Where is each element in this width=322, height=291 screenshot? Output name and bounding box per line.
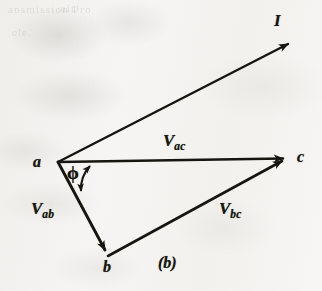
vector-label-vab: Vab <box>31 200 54 217</box>
vector-label-vac-symbol: V <box>163 131 174 150</box>
phasor-diagram-figure: ansmission Pro uit ole. a b c I Vac Vab … <box>0 0 322 291</box>
figure-caption: (b) <box>158 255 177 271</box>
vector-label-current-I: I <box>274 12 281 29</box>
vector-line-vbc <box>108 161 282 256</box>
vector-drawing-canvas <box>0 0 322 291</box>
vector-label-vab-subscript: ab <box>42 208 54 220</box>
vector-label-vac-subscript: ac <box>174 140 185 152</box>
vector-label-vbc-subscript: bc <box>230 208 241 220</box>
node-label-c: c <box>297 149 304 165</box>
vector-label-vac: Vac <box>163 132 186 149</box>
vector-label-vbc-symbol: V <box>219 199 230 218</box>
angle-arc-phi <box>81 166 90 191</box>
vector-label-vab-symbol: V <box>31 199 42 218</box>
node-label-b: b <box>103 259 111 275</box>
vector-line-vab <box>58 162 105 250</box>
vector-line-vac <box>58 159 283 163</box>
angle-label-phi: ϕ <box>67 163 79 182</box>
node-label-a: a <box>33 154 41 170</box>
vector-label-vbc: Vbc <box>219 200 242 217</box>
